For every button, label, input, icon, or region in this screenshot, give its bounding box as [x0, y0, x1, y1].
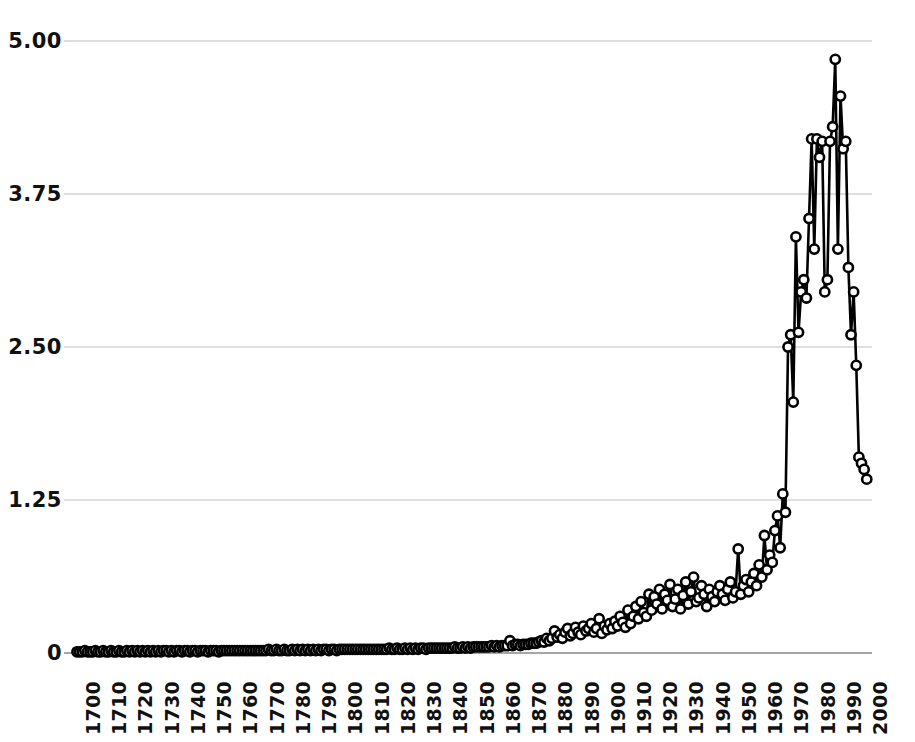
data-point: [828, 122, 837, 131]
data-point: [849, 287, 858, 296]
data-point: [783, 342, 792, 351]
data-point-markers: [72, 55, 871, 657]
data-point: [860, 465, 869, 474]
data-point: [799, 275, 808, 284]
data-point: [710, 597, 719, 606]
data-point: [778, 489, 787, 498]
data-point: [823, 275, 832, 284]
data-point: [726, 577, 735, 586]
data-point: [836, 91, 845, 100]
data-point: [791, 232, 800, 241]
data-point: [637, 597, 646, 606]
series-polyline: [77, 59, 867, 651]
data-point: [844, 263, 853, 272]
data-point: [852, 361, 861, 370]
data-point: [770, 526, 779, 535]
data-point: [802, 293, 811, 302]
data-point: [804, 214, 813, 223]
data-point: [841, 137, 850, 146]
data-point: [734, 544, 743, 553]
data-point: [810, 244, 819, 253]
data-point: [815, 153, 824, 162]
data-point: [846, 330, 855, 339]
data-point: [760, 531, 769, 540]
data-point: [831, 55, 840, 64]
data-point: [781, 508, 790, 517]
data-point: [794, 328, 803, 337]
data-point: [689, 573, 698, 582]
data-point: [776, 543, 785, 552]
data-point: [820, 287, 829, 296]
data-point: [833, 244, 842, 253]
data-series-line: [77, 59, 867, 651]
data-point: [862, 475, 871, 484]
data-point: [825, 137, 834, 146]
data-point: [768, 558, 777, 567]
chart-container: 01.252.503.755.00 1700171017201730174017…: [0, 0, 915, 742]
data-point: [789, 397, 798, 406]
gridlines: [64, 41, 872, 500]
plot-area: [0, 0, 915, 742]
